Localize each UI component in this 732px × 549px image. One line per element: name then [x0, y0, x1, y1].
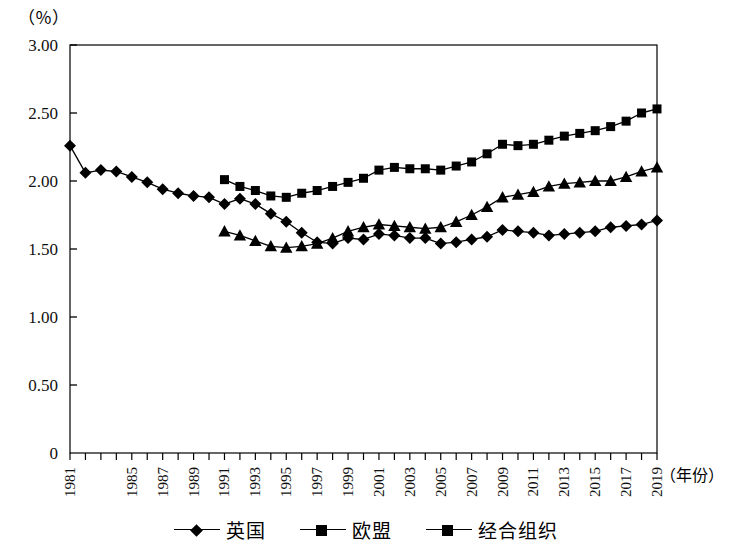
data-point — [435, 238, 447, 250]
data-point — [251, 186, 260, 195]
legend-item-eu: 欧盟 — [300, 516, 392, 543]
data-point — [637, 109, 646, 118]
x-axis-tick-label: 2013 — [556, 467, 572, 497]
x-axis-tick-label: 2005 — [433, 467, 449, 497]
data-point — [651, 161, 663, 172]
data-point — [388, 229, 400, 241]
x-axis-tick-label: 2009 — [495, 467, 511, 497]
legend-line-oecd — [426, 523, 472, 537]
data-point — [359, 174, 368, 183]
data-point — [558, 228, 570, 240]
legend-label-uk: 英国 — [226, 516, 266, 543]
data-point — [527, 186, 539, 197]
y-axis-tick-label: 2.00 — [28, 172, 58, 191]
data-point — [605, 221, 617, 233]
legend-item-oecd: 经合组织 — [426, 516, 558, 543]
data-point — [466, 233, 478, 245]
data-point — [265, 208, 277, 220]
data-point — [497, 224, 509, 236]
diamond-marker-icon — [190, 524, 203, 537]
x-axis-tick-label: 2019 — [649, 467, 665, 497]
data-point — [651, 214, 663, 226]
data-point — [313, 186, 322, 195]
data-point — [374, 166, 383, 175]
data-point — [218, 198, 230, 210]
data-point — [172, 187, 184, 199]
chart-container: （％） （年份） 00.501.001.502.002.503.00198119… — [0, 0, 732, 549]
data-point — [574, 227, 586, 239]
y-axis-tick-label: 2.50 — [28, 104, 58, 123]
data-point — [512, 225, 524, 237]
data-point — [419, 232, 431, 244]
data-point — [64, 140, 76, 152]
data-point — [465, 209, 477, 220]
data-point — [265, 240, 277, 251]
series-square — [220, 104, 662, 201]
data-point — [405, 164, 414, 173]
x-axis-tick-label: 2001 — [371, 467, 387, 497]
x-axis-tick-label: 1991 — [216, 467, 232, 497]
data-point — [481, 231, 493, 243]
data-point — [620, 220, 632, 232]
data-point — [249, 235, 261, 246]
data-point — [529, 140, 538, 149]
data-point — [481, 201, 493, 212]
data-point — [620, 171, 632, 182]
data-point — [390, 163, 399, 172]
data-point — [79, 167, 91, 179]
data-point — [622, 117, 631, 126]
data-point — [218, 225, 230, 236]
chart-legend: 英国 欧盟 经合组织 — [0, 516, 732, 543]
legend-label-oecd: 经合组织 — [478, 516, 558, 543]
data-point — [436, 166, 445, 175]
x-axis-tick-label: 2003 — [402, 467, 418, 497]
line-chart-plot: 00.501.001.502.002.503.00198119851987198… — [0, 0, 732, 515]
x-axis-tick-label: 1981 — [62, 467, 78, 497]
data-point — [450, 216, 462, 227]
square-marker-icon — [316, 525, 327, 536]
data-point — [326, 232, 338, 243]
data-point — [373, 218, 385, 229]
data-point — [296, 227, 308, 239]
y-axis-tick-label: 3.00 — [28, 36, 58, 55]
data-point — [188, 190, 200, 202]
data-point — [95, 164, 107, 176]
x-axis-tick-label: 1989 — [186, 467, 202, 497]
x-axis-tick-label: 2007 — [464, 467, 480, 498]
legend-label-eu: 欧盟 — [352, 516, 392, 543]
data-point — [513, 141, 522, 150]
legend-item-uk: 英国 — [174, 516, 266, 543]
x-axis-tick-label: 1985 — [124, 467, 140, 497]
data-point — [498, 140, 507, 149]
data-point — [452, 162, 461, 171]
x-axis-tick-label: 1997 — [309, 467, 325, 498]
data-point — [544, 136, 553, 145]
data-point — [653, 104, 662, 113]
data-point — [450, 236, 462, 248]
data-point — [467, 157, 476, 166]
data-point — [636, 219, 648, 231]
data-point — [220, 175, 229, 184]
data-point — [328, 182, 337, 191]
x-axis-tick-label: 2017 — [618, 467, 634, 498]
y-axis-tick-label: 0.50 — [28, 376, 58, 395]
x-axis-tick-label: 2015 — [587, 467, 603, 497]
data-point — [282, 193, 291, 202]
y-axis-tick-label: 1.00 — [28, 308, 58, 327]
data-point — [203, 191, 215, 203]
data-point — [249, 198, 261, 210]
data-point — [266, 191, 275, 200]
data-point — [297, 189, 306, 198]
data-point — [344, 178, 353, 187]
legend-line-eu — [300, 523, 346, 537]
data-point — [126, 171, 138, 183]
x-axis-tick-label: 1987 — [155, 467, 171, 498]
data-point — [141, 176, 153, 188]
data-point — [435, 221, 447, 232]
data-point — [280, 216, 292, 228]
data-point — [404, 232, 416, 244]
data-point — [373, 228, 385, 240]
x-axis-tick-label: 1993 — [247, 467, 263, 497]
data-point — [234, 193, 246, 205]
y-axis-tick-label: 0 — [50, 444, 59, 463]
